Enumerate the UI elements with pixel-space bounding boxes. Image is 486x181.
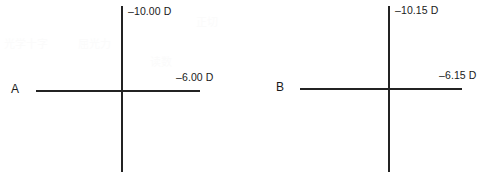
horizontal-power-label-b: –6.15 D <box>439 70 476 81</box>
vertical-power-label-b: –10.15 D <box>395 5 438 16</box>
vertical-power-label-a: –10.00 D <box>128 6 171 17</box>
power-cross-figure: 光学十字 屈光力 正切 读数 A –10.00 D –6.00 D B –10.… <box>0 0 486 181</box>
power-cross-panel-b: B –10.15 D –6.15 D <box>243 0 486 181</box>
horizontal-meridian-line-b <box>300 88 462 90</box>
vertical-meridian-line-a <box>121 6 123 172</box>
horizontal-power-label-a: –6.00 D <box>176 72 213 83</box>
horizontal-meridian-line-a <box>36 90 200 92</box>
power-cross-panel-a: A –10.00 D –6.00 D <box>0 0 243 181</box>
panel-label-a: A <box>11 83 19 95</box>
panel-label-b: B <box>276 81 284 93</box>
